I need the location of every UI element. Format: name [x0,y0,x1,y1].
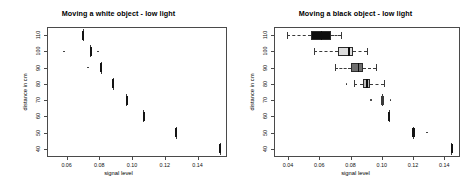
x-tick-mark [382,157,383,160]
y-tick-mark [44,116,47,117]
chart-panel-black-object: Moving a black object - low light 0.040.… [237,0,474,193]
outlier-point [63,51,65,53]
box-iqr [388,112,390,121]
median-line [358,63,359,72]
y-tick-label: 80 [262,81,268,87]
x-axis-title: signal level [237,170,474,176]
y-tick-label: 100 [262,47,268,56]
whisker-upper [331,35,342,36]
y-tick-mark [44,133,47,134]
whisker-cap-lower [314,48,315,55]
y-tick-label: 80 [35,81,41,87]
x-tick-mark [319,157,320,160]
median-line [366,79,367,88]
y-tick-mark [271,84,274,85]
box-iqr [338,47,353,56]
y-tick-mark [271,133,274,134]
x-tick-label: 0.06 [61,162,72,168]
y-tick-label: 110 [35,31,41,40]
outlier-point [97,51,99,53]
whisker-cap-upper [367,48,368,55]
x-tick-label: 0.06 [314,162,325,168]
y-axis-title: distance in cm [249,73,255,110]
x-tick-mark [165,157,166,160]
y-tick-mark [271,35,274,36]
y-tick-label: 100 [35,47,41,56]
x-tick-mark [198,157,199,160]
y-tick-label: 40 [35,146,41,152]
median-line [348,47,349,56]
x-axis-title: signal level [0,170,237,176]
x-tick-mark [288,157,289,160]
box-iqr [126,96,128,105]
x-tick-label: 0.14 [439,162,450,168]
x-tick-label: 0.12 [408,162,419,168]
whisker-lower [335,68,351,69]
outlier-point [370,99,372,101]
x-tick-label: 0.14 [192,162,203,168]
whisker-cap-lower [354,80,355,87]
whisker-cap-upper [376,64,377,71]
box-iqr [381,96,384,105]
x-tick-label: 0.04 [283,162,294,168]
whisker-cap-upper [384,80,385,87]
box-iqr [100,63,102,72]
box-iqr [451,144,453,153]
y-tick-label: 90 [262,65,268,71]
x-tick-label: 0.12 [160,162,171,168]
box-iqr [143,112,145,121]
y-tick-label: 90 [35,65,41,71]
x-tick-mark [351,157,352,160]
y-tick-label: 50 [262,130,268,136]
x-tick-label: 0.08 [94,162,105,168]
y-tick-mark [44,35,47,36]
y-tick-label: 60 [35,113,41,119]
y-tick-mark [44,100,47,101]
y-tick-label: 70 [262,97,268,103]
plot-frame-right [274,27,460,157]
box-iqr [175,128,177,137]
box-iqr [219,144,221,153]
whisker-lower [287,35,311,36]
y-tick-mark [44,51,47,52]
y-tick-mark [44,149,47,150]
chart-title: Moving a white object - low light [0,9,237,18]
median-line [321,31,322,40]
x-tick-mark [444,157,445,160]
y-tick-mark [44,68,47,69]
y-tick-mark [271,149,274,150]
whisker-upper [370,84,384,85]
x-tick-label: 0.08 [345,162,356,168]
x-tick-mark [67,157,68,160]
figure-canvas: Moving a white object - low light 0.060.… [0,0,474,193]
box-iqr [90,47,92,56]
box-iqr [112,79,114,88]
y-tick-label: 50 [35,130,41,136]
x-tick-mark [413,157,414,160]
box-iqr [82,31,84,40]
whisker-lower [314,51,338,52]
whisker-cap-lower [287,32,288,39]
whisker-upper [363,68,376,69]
y-tick-mark [271,100,274,101]
whisker-cap-upper [341,32,342,39]
y-tick-mark [271,68,274,69]
y-tick-mark [44,84,47,85]
y-tick-mark [271,51,274,52]
x-tick-label: 0.10 [127,162,138,168]
y-tick-mark [271,116,274,117]
chart-title: Moving a black object - low light [237,9,474,18]
chart-panel-white-object: Moving a white object - low light 0.060.… [0,0,237,193]
x-tick-mark [99,157,100,160]
plot-frame-left [47,27,227,157]
y-tick-label: 60 [262,113,268,119]
y-tick-label: 110 [262,31,268,40]
whisker-cap-lower [335,64,336,71]
y-axis-title: distance in cm [22,73,28,110]
x-tick-mark [132,157,133,160]
box-iqr [412,128,415,137]
whisker-lower [354,84,363,85]
y-tick-label: 40 [262,146,268,152]
y-tick-label: 70 [35,97,41,103]
x-tick-label: 0.10 [377,162,388,168]
